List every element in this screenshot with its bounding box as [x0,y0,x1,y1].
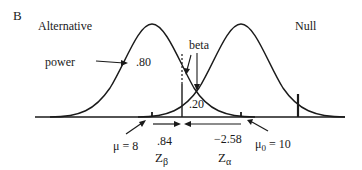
z-beta-value: .84 [157,134,172,148]
power-label: power [45,55,75,69]
power-arrow [96,61,124,63]
z-alpha-label: Zα [218,150,232,167]
alternative-curve [50,24,255,117]
panel-label: B [13,8,22,23]
power-analysis-diagram: B Alternative Null power .80 beta .20 μ … [0,0,362,170]
beta-label: beta [189,38,210,52]
alternative-mean-label: μ = 8 [113,139,138,153]
beta-arrow-left [187,55,191,70]
z-beta-label: Zβ [155,150,168,167]
alternative-mean-arrow [126,123,142,134]
null-mean-arrow [252,122,268,131]
z-beta-arrowhead-icon [174,121,181,127]
null-label: Null [295,19,317,33]
null-mean-label: μ0 = 10 [255,137,291,153]
alternative-mean-arrowhead-icon [139,120,146,127]
beta-value: .20 [189,97,204,111]
alternative-label: Alternative [38,19,92,33]
z-alpha-arrowhead-icon [184,121,191,127]
z-alpha-value: −2.58 [214,132,242,146]
null-curve [138,24,345,117]
power-value: .80 [136,55,151,69]
